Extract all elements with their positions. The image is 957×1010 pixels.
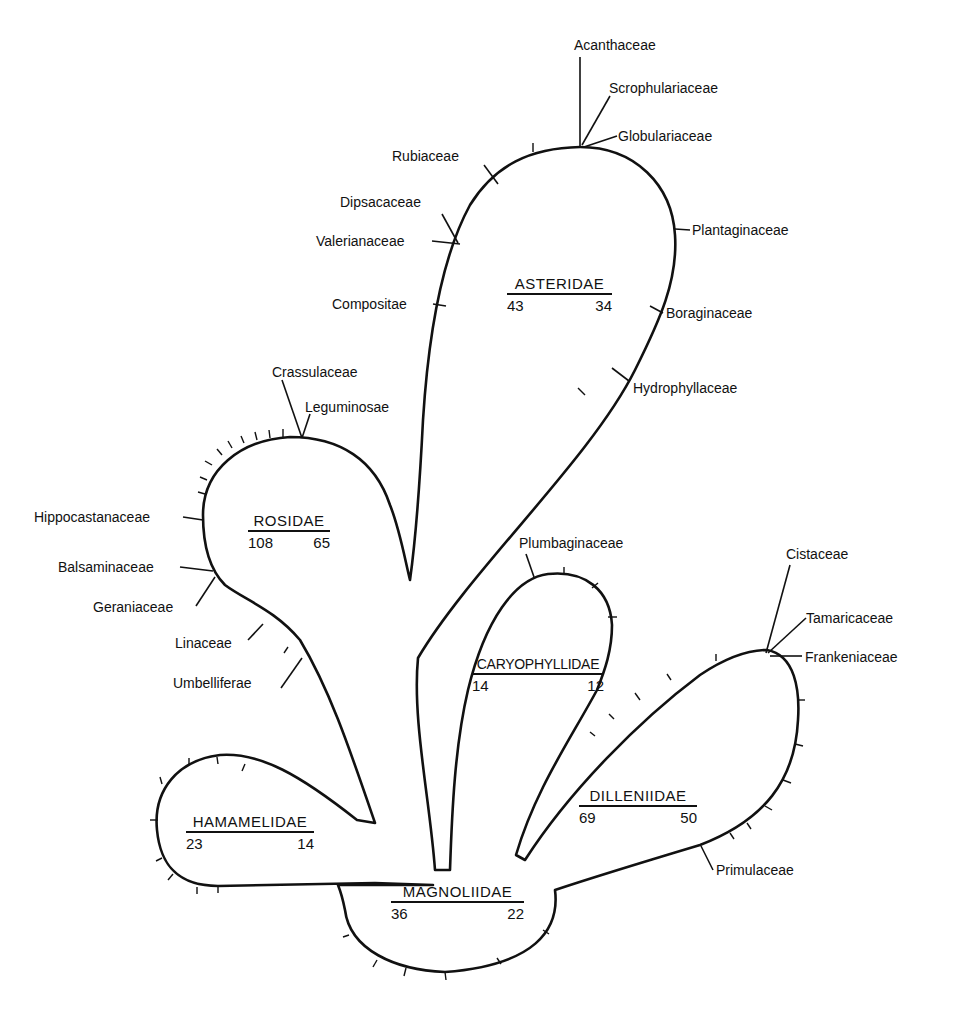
subclass-name: DILLENIIDAE (579, 788, 697, 807)
family-label-umbelliferae: Umbelliferae (173, 676, 252, 690)
subclass-name: CARYOPHYLLIDAE (472, 657, 604, 675)
subclass-magnoliidae: MAGNOLIIDAE 3622 (391, 884, 524, 921)
family-label-plantaginaceae: Plantaginaceae (692, 223, 789, 237)
subclass-count-right: 50 (680, 810, 697, 825)
leader-crassulaceae (282, 380, 302, 438)
leader-primulaceae (701, 846, 713, 870)
family-label-acanthaceae: Acanthaceae (574, 38, 656, 52)
leader-geraniaceae (196, 577, 215, 606)
subclass-count-right: 65 (313, 535, 330, 550)
subclass-hamamelidae: HAMAMELIDAE 2314 (186, 814, 314, 851)
leader-hydrophyllaceae (612, 368, 629, 381)
leader-cistaceae (766, 565, 790, 653)
family-label-globulariaceae: Globulariaceae (618, 129, 712, 143)
leader-dipsacaceae (442, 214, 458, 243)
family-label-leguminosae: Leguminosae (305, 400, 389, 414)
subclass-name: ROSIDAE (248, 513, 330, 532)
subclass-count-right: 34 (595, 298, 612, 313)
subclass-rosidae: ROSIDAE 10865 (248, 513, 330, 550)
family-label-linaceae: Linaceae (175, 636, 232, 650)
leader-hippocastanaceae (183, 517, 203, 520)
family-label-cistaceae: Cistaceae (786, 547, 848, 561)
subclass-count-left: 43 (507, 298, 524, 313)
dicot-subclass-outline-diagram (0, 0, 957, 1010)
leader-compositae (433, 304, 446, 306)
subclass-count-left: 108 (248, 535, 273, 550)
subclass-count-right: 14 (297, 836, 314, 851)
subclass-name: MAGNOLIIDAE (391, 884, 524, 903)
family-leader-lines (180, 57, 806, 870)
leader-scrophulariaceae (582, 96, 610, 145)
subclass-name: ASTERIDAE (507, 276, 612, 295)
family-label-tamaricaceae: Tamaricaceae (806, 611, 893, 625)
leader-plantaginaceae (675, 229, 690, 230)
subclass-asteridae: ASTERIDAE 4334 (507, 276, 612, 313)
subclass-count-left: 23 (186, 836, 203, 851)
family-label-frankeniaceae: Frankeniaceae (805, 650, 898, 664)
leader-plumbaginaceae (526, 554, 534, 577)
subclass-count-left: 14 (472, 678, 489, 693)
subclass-caryophyllidae: CARYOPHYLLIDAE 1412 (472, 657, 604, 693)
outline-tick-marks (150, 143, 805, 980)
family-label-boraginaceae: Boraginaceae (666, 306, 752, 320)
leader-valerianaceae (432, 241, 460, 244)
family-label-valerianaceae: Valerianaceae (316, 234, 404, 248)
subclass-count-left: 36 (391, 906, 408, 921)
leader-globulariaceae (584, 136, 617, 147)
subclass-count-right: 22 (507, 906, 524, 921)
leader-umbelliferae (281, 658, 302, 688)
family-label-rubiaceae: Rubiaceae (392, 149, 459, 163)
subclass-name: HAMAMELIDAE (186, 814, 314, 833)
family-label-crassulaceae: Crassulaceae (272, 365, 358, 379)
family-label-compositae: Compositae (332, 297, 407, 311)
family-label-hippocastanaceae: Hippocastanaceae (34, 510, 150, 524)
subclass-count-left: 69 (579, 810, 596, 825)
family-label-geraniaceae: Geraniaceae (93, 600, 173, 614)
leader-balsaminaceae (180, 567, 213, 571)
leader-linaceae (248, 624, 263, 640)
leader-leguminosae (302, 414, 310, 438)
family-label-dipsacaceae: Dipsacaceae (340, 195, 421, 209)
subclass-dilleniidae: DILLENIIDAE 6950 (579, 788, 697, 825)
family-label-balsaminaceae: Balsaminaceae (58, 560, 154, 574)
family-label-plumbaginaceae: Plumbaginaceae (519, 536, 623, 550)
family-label-primulaceae: Primulaceae (716, 863, 794, 877)
subclass-count-right: 12 (587, 678, 604, 693)
family-label-hydrophyllaceae: Hydrophyllaceae (633, 381, 737, 395)
family-label-scrophulariaceae: Scrophulariaceae (609, 81, 718, 95)
